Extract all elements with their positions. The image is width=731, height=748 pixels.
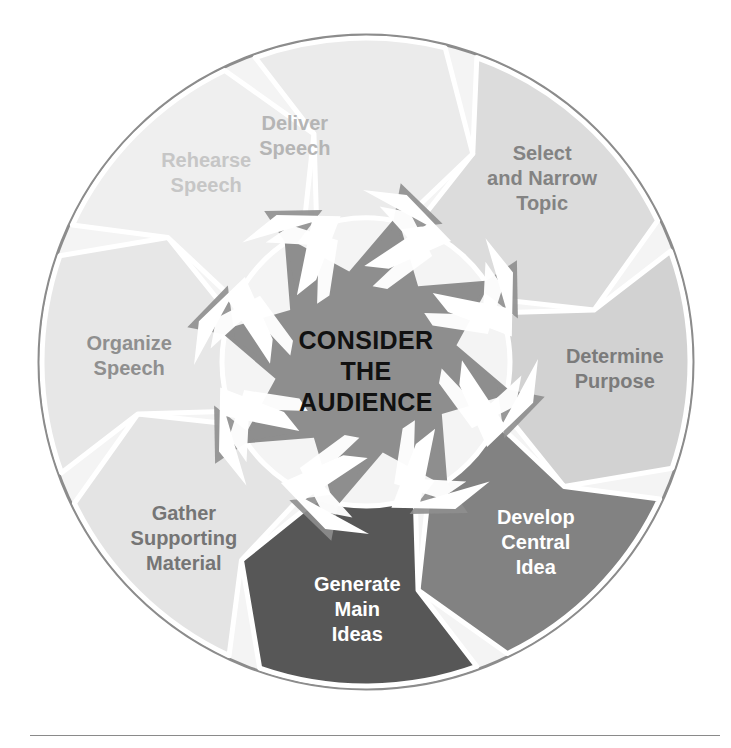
step-label-line: Idea xyxy=(516,556,557,578)
step-label-line: Speech xyxy=(259,137,330,159)
step-label-line: and Narrow xyxy=(487,167,597,189)
step-label-line: Topic xyxy=(516,192,568,214)
figure-canvas: Selectand NarrowTopicDeterminePurposeDev… xyxy=(0,0,731,748)
step-label-line: Generate xyxy=(314,573,401,595)
step-label-line: Purpose xyxy=(575,370,655,392)
step-label-line: Organize xyxy=(86,332,172,354)
step-label-line: Speech xyxy=(94,357,165,379)
step-label-line: Develop xyxy=(497,506,575,528)
center-title-line-2: THE xyxy=(340,357,391,385)
step-label-line: Supporting xyxy=(131,527,238,549)
step-label-line: Rehearse xyxy=(161,149,251,171)
step-label-line: Speech xyxy=(171,174,242,196)
step-label-line: Gather xyxy=(152,502,217,524)
step-label-line: Material xyxy=(146,552,222,574)
step-label-line: Central xyxy=(501,531,570,553)
step-label-line: Main xyxy=(335,598,381,620)
center-title-line-3: AUDIENCE xyxy=(299,388,433,416)
step-label-line: Select xyxy=(513,142,572,164)
step-label-line: Ideas xyxy=(332,623,383,645)
audience-centered-model-diagram: Selectand NarrowTopicDeterminePurposeDev… xyxy=(0,0,731,748)
step-label-line: Determine xyxy=(566,345,664,367)
step-label-line: Deliver xyxy=(261,112,328,134)
footer-divider-rule xyxy=(30,735,720,736)
center-title-line-1: CONSIDER xyxy=(298,326,433,354)
